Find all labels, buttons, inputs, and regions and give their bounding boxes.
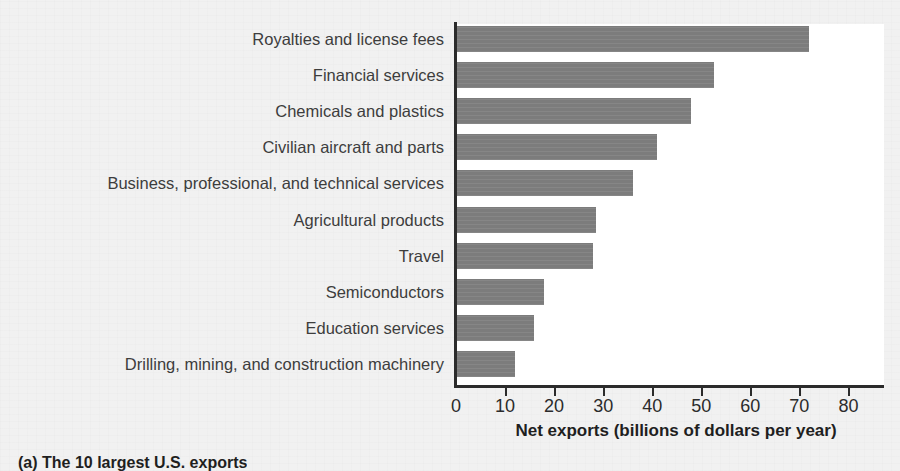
- x-axis-tick: [848, 388, 850, 396]
- bar: [456, 243, 593, 269]
- x-axis-tick-label: 20: [534, 396, 574, 417]
- figure-caption: (a) The 10 largest U.S. exports: [18, 454, 247, 471]
- x-axis-tick-label: 40: [632, 396, 672, 417]
- x-axis-tick: [652, 388, 654, 396]
- category-label: Civilian aircraft and parts: [262, 129, 444, 165]
- category-label: Royalties and license fees: [252, 21, 444, 57]
- bar: [456, 98, 691, 124]
- x-axis-tick: [750, 388, 752, 396]
- x-axis-tick-label: 30: [583, 396, 623, 417]
- bar: [456, 26, 809, 52]
- x-axis-tick: [554, 388, 556, 396]
- bar: [456, 279, 544, 305]
- bar: [456, 207, 596, 233]
- category-label: Education services: [306, 310, 445, 346]
- category-label: Chemicals and plastics: [275, 93, 444, 129]
- category-label: Agricultural products: [294, 202, 444, 238]
- x-axis-tick: [505, 388, 507, 396]
- x-axis-tick-label: 50: [681, 396, 721, 417]
- bar: [456, 62, 714, 88]
- x-axis-tick: [603, 388, 605, 396]
- bar: [456, 351, 515, 377]
- category-label: Business, professional, and technical se…: [107, 165, 444, 201]
- x-axis-tick: [701, 388, 703, 396]
- bar-series: [456, 24, 884, 386]
- category-label: Semiconductors: [326, 274, 444, 310]
- category-label: Travel: [399, 238, 444, 274]
- bar: [456, 134, 657, 160]
- category-label: Drilling, mining, and construction machi…: [125, 346, 444, 382]
- y-axis-line: [454, 22, 457, 388]
- bar: [456, 315, 534, 341]
- x-axis-tick-label: 70: [779, 396, 819, 417]
- x-axis-tick-label: 80: [828, 396, 868, 417]
- x-axis-title: Net exports (billions of dollars per yea…: [456, 421, 896, 441]
- category-label: Financial services: [313, 57, 444, 93]
- x-axis-tick-label: 60: [730, 396, 770, 417]
- bar: [456, 170, 633, 196]
- x-axis-line: [454, 385, 884, 388]
- category-label-column: Royalties and license feesFinancial serv…: [0, 24, 450, 386]
- x-axis-tick-label: 0: [436, 396, 476, 417]
- x-axis-tick: [799, 388, 801, 396]
- x-axis-tick-label: 10: [485, 396, 525, 417]
